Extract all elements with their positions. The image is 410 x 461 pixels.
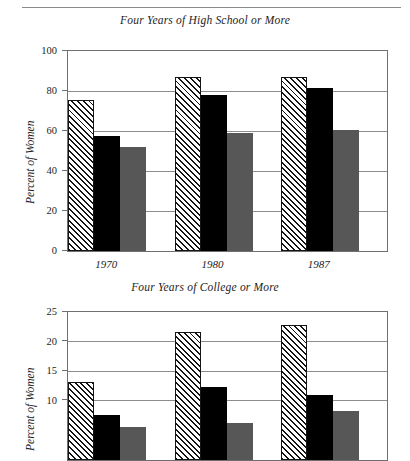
x-axis-tick-label: 1987 (279, 258, 359, 270)
bar-1970-series-1 (68, 100, 94, 251)
y-axis-tick-label: 40 (17, 165, 57, 176)
gridline (68, 371, 387, 372)
y-axis-tick (62, 370, 67, 371)
y-axis-tick (62, 130, 67, 131)
bar-1970-series-1 (68, 382, 94, 460)
y-axis-tick (62, 210, 67, 211)
plot-area-high-school (67, 50, 388, 252)
bar-1980-series-1 (175, 332, 201, 460)
bar-1980-series-2 (201, 95, 227, 251)
bar-1987-series-2 (307, 88, 333, 251)
gridline (68, 400, 387, 401)
y-axis-tick-label: 0 (17, 245, 57, 256)
y-axis-tick (62, 90, 67, 91)
y-axis-tick-label: 80 (17, 85, 57, 96)
bar-1970-series-3 (120, 147, 146, 251)
bar-1980-series-3 (227, 133, 253, 251)
bar-1987-series-3 (333, 411, 359, 460)
y-axis-tick-label: 20 (17, 335, 57, 346)
y-axis-tick (62, 311, 67, 312)
x-axis-tick-label: 1980 (173, 258, 253, 270)
y-axis-tick-label: 10 (17, 394, 57, 405)
chart-college: Four Years of College or More Percent of… (0, 281, 410, 461)
bar-1970-series-3 (120, 427, 146, 460)
y-axis-tick-label: 20 (17, 205, 57, 216)
plot-area-college (67, 311, 388, 461)
y-axis-label-college: Percent of Women (24, 368, 36, 451)
gridline (68, 91, 387, 92)
bar-1970-series-2 (94, 415, 120, 460)
chart-title-college: Four Years of College or More (0, 281, 410, 293)
y-axis-tick (62, 170, 67, 171)
y-axis-tick-label: 60 (17, 125, 57, 136)
bar-1987-series-1 (281, 77, 307, 251)
chart-title-high-school: Four Years of High School or More (0, 14, 410, 26)
bar-1987-series-2 (307, 395, 333, 460)
y-axis-tick-label: 15 (17, 365, 57, 376)
y-axis-tick-label: 25 (17, 306, 57, 317)
y-axis-tick-label: 100 (17, 45, 57, 56)
y-axis-tick (62, 50, 67, 51)
bar-1980-series-3 (227, 423, 253, 460)
bar-1987-series-3 (333, 130, 359, 251)
y-axis-tick (62, 250, 67, 251)
bar-1980-series-2 (201, 387, 227, 460)
bar-1980-series-1 (175, 77, 201, 251)
y-axis-tick (62, 399, 67, 400)
y-axis-tick (62, 340, 67, 341)
chart-high-school: Four Years of High School or More Percen… (0, 14, 410, 280)
page-divider-rule (22, 7, 401, 8)
bar-1987-series-1 (281, 325, 307, 460)
bar-1970-series-2 (94, 136, 120, 251)
gridline (68, 341, 387, 342)
x-axis-tick-label: 1970 (66, 258, 146, 270)
